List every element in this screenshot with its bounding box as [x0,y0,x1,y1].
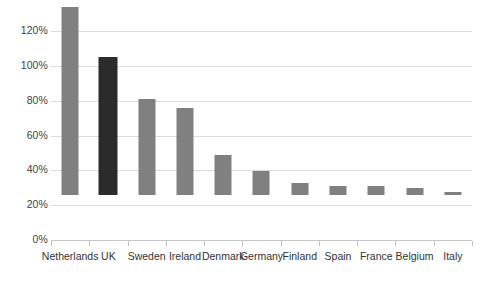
y-axis-tick-label-text: 20% [2,199,48,210]
plot-area: NetherlandsUKSwedenIrelandDenmarkGermany… [51,0,472,286]
bar-slot [319,0,357,241]
bar-germany[interactable] [253,171,270,195]
bar-belgium[interactable] [406,188,423,195]
bar-slot [166,0,204,241]
y-axis-tick-label-text: 100% [2,60,48,71]
x-axis-tick-mark [319,241,320,246]
bar-chart: 0%20%40%60%80%100%120% NetherlandsUKSwed… [0,0,493,286]
x-axis-tick-mark [204,241,205,246]
bar-slot [51,0,89,241]
y-axis-tick-label-text: 60% [2,130,48,141]
bar-slot [434,0,472,241]
bar-slot [357,0,395,241]
bar-denmark[interactable] [215,155,232,195]
y-axis-tick-label-text: 120% [2,25,48,36]
bar-finland[interactable] [291,183,308,195]
y-axis-tick-label: 40% [0,164,48,175]
bar-slot [89,0,127,241]
x-axis-tick-mark [51,241,52,246]
bar-slot [242,0,280,241]
x-axis-tick-mark [128,241,129,246]
x-axis-tick-mark [281,241,282,246]
y-axis-tick-label: 60% [0,130,48,141]
y-axis-tick-label: 80% [0,95,48,106]
x-axis-label-italy: Italy [424,250,482,263]
y-axis-tick-label: 100% [0,60,48,71]
x-axis-tick-mark [357,241,358,246]
bar-slot [128,0,166,241]
bar-slot [204,0,242,241]
y-axis-tick-label: 0% [0,234,48,245]
bar-italy[interactable] [444,192,461,195]
bar-sweden[interactable] [138,99,155,195]
x-axis-tick-mark [434,241,435,246]
bar-slot [281,0,319,241]
y-axis-tick-label: 120% [0,25,48,36]
y-axis-tick-label-text: 40% [2,164,48,175]
bar-uk[interactable] [99,57,118,195]
x-axis-tick-mark [472,241,473,246]
bar-slot [395,0,433,241]
bar-netherlands[interactable] [62,7,79,195]
bar-france[interactable] [368,186,385,195]
bar-ireland[interactable] [176,108,193,195]
bar-spain[interactable] [330,186,347,195]
x-axis-tick-mark [395,241,396,246]
y-axis-tick-label-text: 0% [2,234,48,245]
x-axis-tick-mark [242,241,243,246]
x-axis-tick-mark [166,241,167,246]
x-axis-tick-mark [89,241,90,246]
y-axis-tick-label-text: 80% [2,95,48,106]
y-axis-tick-label: 20% [0,199,48,210]
